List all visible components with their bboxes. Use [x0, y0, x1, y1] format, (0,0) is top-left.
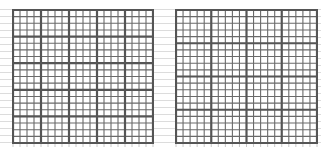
right-grid-graphic	[175, 9, 318, 148]
right-grid-panel	[175, 9, 318, 148]
left-grid-panel	[12, 9, 154, 148]
left-grid-graphic	[12, 9, 154, 148]
